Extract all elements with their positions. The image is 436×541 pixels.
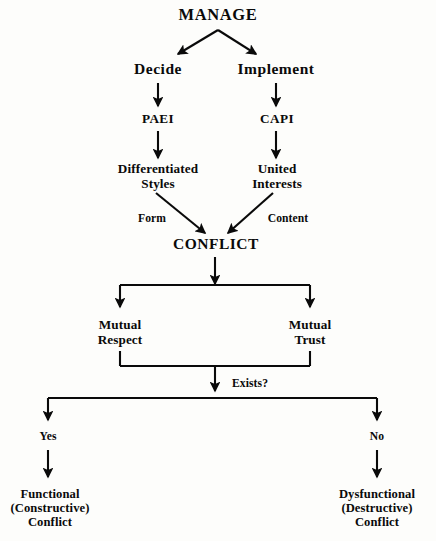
node-dysfunctional-conflict-line2: (Destructive) — [339, 501, 415, 515]
edge-label-no-text: No — [370, 430, 384, 443]
edge-label-form-text: Form — [138, 212, 166, 225]
node-mutual-respect-line2: Respect — [98, 333, 143, 348]
node-mutual-respect-line1: Mutual — [98, 318, 143, 333]
node-differentiated-styles-line2: Styles — [118, 177, 198, 192]
node-united-interests: United Interests — [252, 162, 302, 192]
node-functional-conflict: Functional (Constructive) Conflict — [10, 487, 89, 529]
node-capi: CAPI — [260, 112, 294, 127]
node-united-interests-line2: Interests — [252, 177, 302, 192]
node-paei: PAEI — [142, 112, 174, 127]
edge-label-content-text: Content — [268, 212, 309, 225]
node-manage: MANAGE — [179, 6, 258, 24]
edge-manage-to-implement — [218, 30, 256, 54]
node-conflict-label: CONFLICT — [173, 235, 259, 252]
edge-label-exists-text: Exists? — [232, 377, 268, 390]
edge-label-yes-text: Yes — [39, 430, 56, 443]
connector-layer — [0, 0, 436, 541]
node-dysfunctional-conflict-line3: Conflict — [339, 515, 415, 529]
node-functional-conflict-line1: Functional — [10, 487, 89, 501]
edge-label-content: Content — [268, 212, 309, 225]
node-dysfunctional-conflict: Dysfunctional (Destructive) Conflict — [339, 487, 415, 529]
edge-label-form: Form — [138, 212, 166, 225]
edge-content-to-conflict — [228, 193, 273, 233]
node-mutual-respect: Mutual Respect — [98, 318, 143, 348]
node-differentiated-styles: Differentiated Styles — [118, 162, 198, 192]
node-differentiated-styles-line1: Differentiated — [118, 162, 198, 177]
node-decide-label: Decide — [134, 60, 182, 77]
node-conflict: CONFLICT — [173, 235, 259, 252]
node-capi-label: CAPI — [260, 112, 294, 127]
edge-label-exists: Exists? — [232, 377, 268, 390]
node-functional-conflict-line3: Conflict — [10, 515, 89, 529]
node-implement: Implement — [238, 60, 315, 77]
node-decide: Decide — [134, 60, 182, 77]
node-mutual-trust-line2: Trust — [289, 333, 331, 348]
node-implement-label: Implement — [238, 60, 315, 77]
node-united-interests-line1: United — [252, 162, 302, 177]
edge-manage-to-decide — [178, 30, 218, 54]
node-functional-conflict-line2: (Constructive) — [10, 501, 89, 515]
edge-label-no: No — [370, 430, 384, 443]
node-mutual-trust-line1: Mutual — [289, 318, 331, 333]
node-dysfunctional-conflict-line1: Dysfunctional — [339, 487, 415, 501]
node-mutual-trust: Mutual Trust — [289, 318, 331, 348]
node-paei-label: PAEI — [142, 112, 174, 127]
node-manage-label: MANAGE — [179, 6, 258, 24]
flowchart-diagram: MANAGE Decide Implement PAEI CAPI Differ… — [0, 0, 436, 541]
edge-label-yes: Yes — [39, 430, 56, 443]
